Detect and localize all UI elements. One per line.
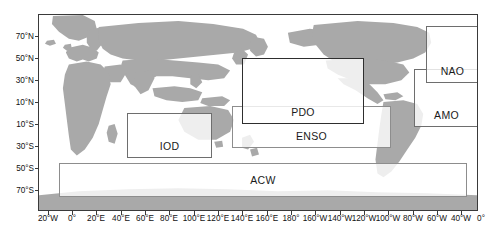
region-label-acw: ACW: [250, 175, 275, 186]
y-tick-label: 70°N: [4, 32, 34, 41]
y-tick-label: 10°S: [4, 120, 34, 129]
region-label-enso: ENSO: [296, 131, 327, 148]
region-label-nao: NAO: [441, 66, 465, 83]
x-tick-label: 140°E: [231, 214, 253, 223]
x-tick-label: 180°: [283, 214, 300, 223]
x-tick-label: 0°: [477, 214, 485, 223]
y-tick: [35, 124, 39, 125]
x-tick-label: 0°: [68, 214, 76, 223]
y-tick-label: 70°S: [4, 186, 34, 195]
region-box-nao[interactable]: NAO: [426, 26, 478, 83]
x-tick-label: 100°E: [183, 214, 205, 223]
x-tick-label: 40°E: [112, 214, 130, 223]
region-box-acw[interactable]: ACW: [59, 163, 467, 197]
region-label-amo: AMO: [434, 110, 459, 127]
y-tick-label: 50°S: [4, 164, 34, 173]
y-tick-label: 10°N: [4, 98, 34, 107]
x-tick-label: 160°E: [256, 214, 278, 223]
y-tick: [35, 36, 39, 37]
x-tick-label: 60°E: [136, 214, 154, 223]
y-tick-label: 30°S: [4, 142, 34, 151]
region-box-pdo[interactable]: PDO: [242, 58, 364, 124]
map-plot-area: ACW ENSO IOD PDO AMO NAO: [38, 14, 478, 211]
x-tick-label: 120°W: [352, 214, 377, 223]
y-tick: [35, 58, 39, 59]
world-map-figure: ACW ENSO IOD PDO AMO NAO: [0, 0, 501, 236]
y-tick: [35, 146, 39, 147]
x-tick-label: 100°W: [376, 214, 401, 223]
x-tick-label: 20°E: [87, 214, 105, 223]
x-tick-label: 60°W: [427, 214, 447, 223]
y-tick: [35, 190, 39, 191]
x-tick-label: 160°W: [303, 214, 328, 223]
region-label-pdo: PDO: [291, 107, 315, 124]
region-label-iod: IOD: [160, 141, 180, 158]
y-tick: [35, 80, 39, 81]
x-tick-label: 20°W: [38, 214, 58, 223]
region-box-iod[interactable]: IOD: [127, 113, 212, 158]
x-tick-label: 80°W: [403, 214, 423, 223]
x-tick-label: 120°E: [207, 214, 229, 223]
y-tick: [35, 102, 39, 103]
y-tick-label: 50°N: [4, 54, 34, 63]
x-tick-label: 80°E: [160, 214, 178, 223]
y-tick-label: 30°N: [4, 76, 34, 85]
y-tick: [35, 168, 39, 169]
x-tick-label: 40°W: [451, 214, 471, 223]
x-tick-label: 140°W: [328, 214, 353, 223]
